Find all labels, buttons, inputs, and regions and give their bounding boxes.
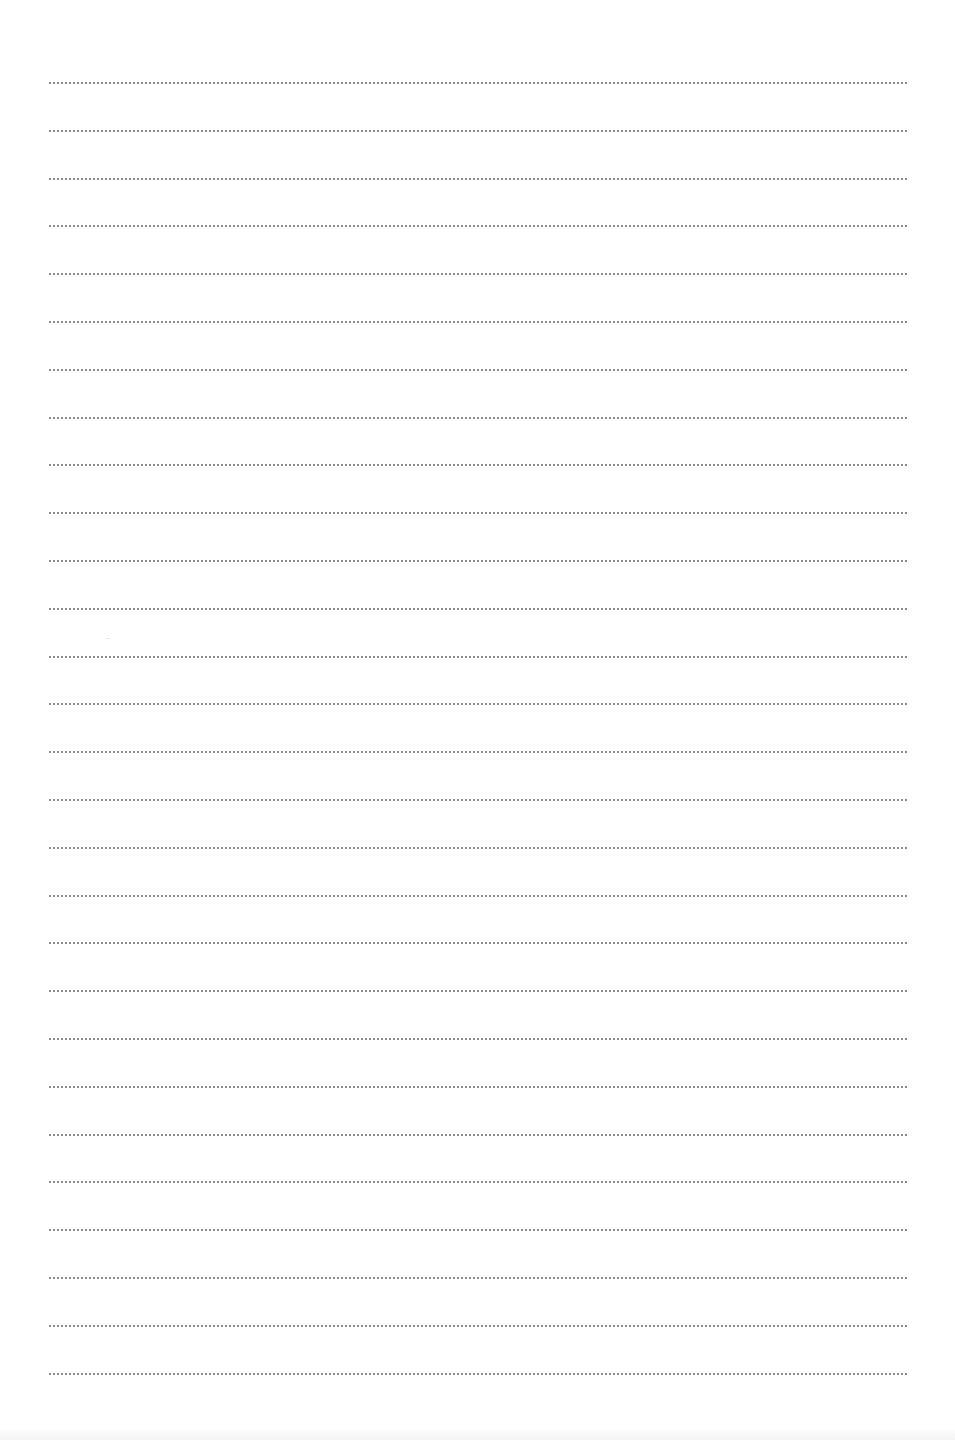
ruled-line: [48, 1229, 908, 1231]
ruled-line: [48, 273, 908, 275]
ruled-line: [48, 464, 908, 466]
ruled-line: [48, 1325, 908, 1327]
ruled-line: [48, 225, 908, 227]
ruled-line: [48, 703, 908, 705]
ruled-line: [48, 130, 908, 132]
ruled-line: [48, 1277, 908, 1279]
ruled-line: [48, 1038, 908, 1040]
ruled-line: [48, 1134, 908, 1136]
ruled-line: [48, 417, 908, 419]
ruled-line: [48, 1086, 908, 1088]
ruled-line: [48, 847, 908, 849]
ruled-line: [48, 799, 908, 801]
ruled-line: [48, 942, 908, 944]
scan-speck: [107, 638, 110, 639]
ruled-line: [48, 82, 908, 84]
ruled-line: [48, 895, 908, 897]
ruled-line: [48, 369, 908, 371]
ruled-line: [48, 178, 908, 180]
ruled-line: [48, 751, 908, 753]
ruled-paper-page: [0, 0, 955, 1440]
ruled-line: [48, 656, 908, 658]
ruled-line: [48, 321, 908, 323]
ruled-line: [48, 990, 908, 992]
ruled-line: [48, 1181, 908, 1183]
ruled-line: [48, 1373, 908, 1375]
ruled-line: [48, 512, 908, 514]
ruled-line: [48, 608, 908, 610]
ruled-line: [48, 560, 908, 562]
